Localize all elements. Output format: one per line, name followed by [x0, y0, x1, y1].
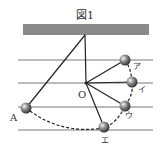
string-to-a-pos	[86, 60, 125, 83]
position-label-a: ア	[133, 62, 141, 71]
string-to-e-pos	[86, 83, 104, 127]
pivot-label: O	[78, 89, 86, 100]
ball-position-a	[120, 55, 131, 66]
string-to-u-pos	[86, 83, 125, 106]
ceiling	[23, 24, 149, 35]
start-label: A	[9, 112, 18, 123]
string-to-a	[26, 35, 85, 108]
pivot-point	[85, 82, 88, 85]
position-label-e: エ	[101, 136, 109, 145]
pendulum-diagram: 図1 O A ア イ ウ エ	[0, 0, 164, 148]
position-label-u: ウ	[125, 111, 133, 120]
ball-position-e	[99, 122, 110, 133]
strings	[26, 35, 132, 127]
ball-position-i	[127, 77, 138, 88]
position-label-i: イ	[138, 85, 146, 94]
figure-title: 図1	[76, 9, 94, 22]
vertical-string	[85, 35, 86, 83]
ball-a	[21, 103, 32, 114]
ball-position-u	[120, 101, 131, 112]
